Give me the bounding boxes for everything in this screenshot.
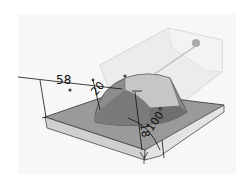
axis-endpoint — [192, 39, 200, 47]
cad-model-canvas: 58 20 18 100° — [0, 0, 249, 183]
dim-label-58[interactable]: 58 — [56, 73, 71, 87]
